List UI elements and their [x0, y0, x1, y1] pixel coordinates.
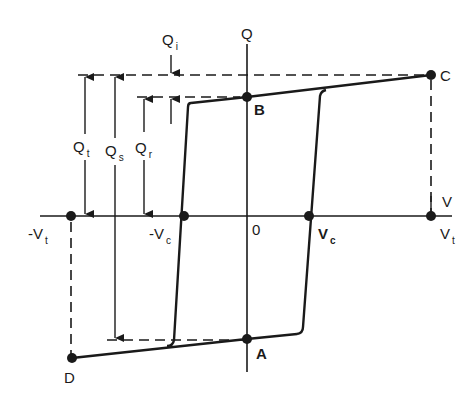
v-axis-label: V: [442, 194, 452, 209]
point-d: [67, 353, 77, 363]
point-c: [426, 70, 436, 80]
upper-branch: [191, 75, 431, 103]
left-edge: [167, 103, 191, 346]
label-d: D: [64, 370, 75, 385]
label-c: C: [440, 68, 451, 83]
dimension-arrows: [85, 55, 431, 338]
label-qt: Qt: [73, 139, 89, 154]
dashed-guides: [71, 75, 431, 354]
label-qs: Qs: [105, 143, 124, 158]
label-neg-vc: -Vc: [149, 226, 171, 241]
point-vt: [426, 211, 436, 221]
label-b: B: [254, 102, 265, 117]
point-b: [242, 92, 252, 102]
point-a: [242, 334, 252, 344]
diagram-graphics: [0, 0, 474, 400]
label-a: A: [256, 346, 267, 361]
point-neg-vt: [66, 211, 76, 221]
hysteresis-diagram: Q V 0 C B A D -Vt -Vc Vc Vt Qi Qt Qs Qr: [0, 0, 474, 400]
q-axis-label: Q: [241, 26, 253, 41]
label-vc: Vc: [318, 226, 336, 241]
label-neg-vt: -Vt: [28, 226, 48, 241]
origin-label: 0: [252, 222, 260, 237]
label-qi: Qi: [162, 32, 178, 47]
label-vt: Vt: [440, 226, 455, 241]
point-neg-vc: [179, 211, 189, 221]
label-qr: Qr: [135, 140, 152, 155]
point-vc: [304, 211, 314, 221]
